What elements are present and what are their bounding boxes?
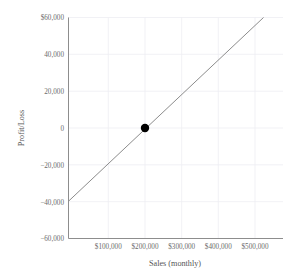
- break-even-chart: $60,000 40,000 20,000 0 −20,000 −40,000 …: [0, 0, 293, 278]
- x-axis-title: Sales (monthly): [149, 259, 201, 268]
- x-tick-label-400000: $400,000: [205, 243, 232, 251]
- x-tick-label-100000: $100,000: [95, 243, 122, 251]
- break-even-point-marker[interactable]: [141, 124, 149, 132]
- chart-container: $60,000 40,000 20,000 0 −20,000 −40,000 …: [0, 0, 293, 278]
- y-tick-label-40000: 40,000: [44, 51, 64, 59]
- y-axis-tick-labels: $60,000 40,000 20,000 0 −20,000 −40,000 …: [40, 14, 64, 243]
- x-tick-label-500000: $500,000: [242, 243, 269, 251]
- y-axis-title: Profit/Loss: [17, 110, 26, 146]
- y-tick-label-60000: $60,000: [41, 14, 65, 22]
- x-tick-label-300000: $300,000: [168, 243, 195, 251]
- break-even-marker-group[interactable]: [141, 124, 149, 132]
- profit-loss-line: [68, 18, 264, 202]
- y-tick-label-neg60000: −60,000: [40, 235, 64, 243]
- y-tick-label-neg40000: −40,000: [40, 199, 64, 207]
- y-tick-label-0: 0: [60, 125, 64, 133]
- x-axis-tick-labels: $100,000 $200,000 $300,000 $400,000 $500…: [95, 243, 269, 251]
- horizontal-gridlines: [68, 18, 283, 202]
- profit-loss-line-series: [68, 18, 264, 202]
- y-tick-label-neg20000: −20,000: [40, 162, 64, 170]
- y-tick-label-20000: 20,000: [44, 88, 64, 96]
- x-tick-label-200000: $200,000: [132, 243, 159, 251]
